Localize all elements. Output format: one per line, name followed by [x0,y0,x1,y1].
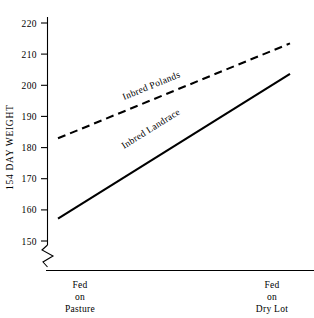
y-axis-title: 154 DAY WEIGHT [5,105,15,190]
line-chart-canvas: 220 210 200 190 180 170 160 150 154 DAY … [0,0,314,318]
x-category-drylot-line-2: on [267,292,277,302]
chart-figure: 220 210 200 190 180 170 160 150 154 DAY … [0,0,314,318]
y-tick-label-220: 220 [22,19,37,29]
y-tick-label-180: 180 [22,143,37,153]
y-tick-label-160: 160 [22,205,37,215]
y-tick-label-210: 210 [22,50,37,60]
x-category-pasture-line-2: on [75,292,85,302]
y-tick-label-170: 170 [22,174,37,184]
x-category-pasture-line-3: Pasture [65,304,95,314]
y-tick-label-150: 150 [22,237,37,247]
x-category-drylot-line-1: Fed [264,280,279,290]
x-category-drylot-line-3: Dry Lot [256,304,289,314]
y-tick-label-190: 190 [22,112,37,122]
x-category-pasture-line-1: Fed [72,280,87,290]
y-tick-label-200: 200 [22,81,37,91]
